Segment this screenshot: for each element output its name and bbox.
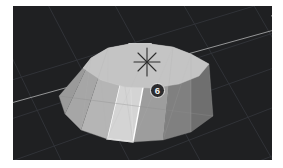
viewport-canvas bbox=[13, 6, 272, 160]
screenshot-root: 6 bbox=[0, 0, 283, 168]
3d-viewport[interactable] bbox=[13, 6, 272, 160]
step-badge: 6 bbox=[150, 83, 165, 98]
